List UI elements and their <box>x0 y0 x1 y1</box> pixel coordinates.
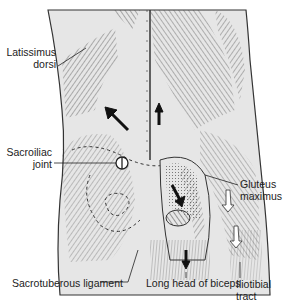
label-iliotibial-tract: Iliotibial tract <box>236 278 271 302</box>
hamstring-region <box>150 240 210 280</box>
label-gluteus-maximus: Gluteus maximus <box>240 178 282 202</box>
label-sacrotuberous-ligament: Sacrotuberous ligament <box>12 277 123 289</box>
label-latissimus-dorsi: Latissimus dorsi <box>6 46 56 70</box>
label-long-head-of-biceps: Long head of biceps <box>146 277 241 289</box>
label-sacroiliac-joint: Sacroiliac joint <box>2 146 52 170</box>
